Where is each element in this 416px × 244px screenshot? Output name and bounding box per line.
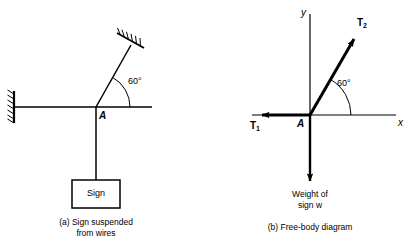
vector-label-T1: T1 [250, 120, 260, 131]
caption-panel-b: (b) Free-body diagram [240, 222, 380, 233]
caption-panel-a: (a) Sign suspended from wires [16, 217, 176, 239]
axis-y-label: y [301, 7, 306, 18]
wall-support-left [8, 90, 15, 123]
sign-box-label: Sign [72, 188, 120, 198]
vector-label-T1-subscript: 1 [256, 125, 260, 132]
joint-label-a: A [99, 110, 106, 121]
angle-label-a: 60° [128, 76, 142, 86]
origin-label-b: A [297, 118, 304, 129]
inclined-wire [96, 45, 131, 107]
weight-vector-label: Weight of sign w [258, 189, 362, 211]
angle-label-b: 60° [337, 78, 351, 88]
vector-T2 [310, 39, 354, 115]
vector-label-T2-subscript: 2 [363, 22, 367, 29]
physics-figure: 60° A Sign (a) Sign suspended from wires… [0, 0, 416, 244]
axis-x-label: x [398, 117, 403, 128]
panel-a-drawing [8, 28, 153, 208]
panel-b-drawing [252, 14, 396, 181]
vector-label-T2: T2 [357, 17, 367, 28]
